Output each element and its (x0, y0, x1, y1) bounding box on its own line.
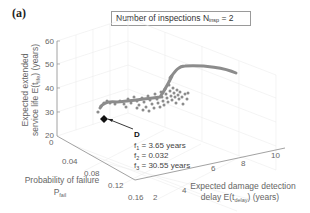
svg-text:service life E(tlife) (years): service life E(tlife) (years) (30, 44, 41, 136)
svg-text:40: 40 (45, 84, 54, 93)
annotation-point-d: D f1 = 3.65 years f2 = 0.032 f3 = 30.55 … (100, 115, 190, 171)
arrow-head-icon (108, 119, 113, 122)
svg-text:0.12: 0.12 (108, 181, 124, 190)
svg-text:10: 10 (271, 151, 280, 160)
svg-text:4: 4 (182, 186, 187, 195)
y-axis-label: Expected damage detection delay E(tdelay… (190, 181, 296, 203)
3d-scatter-plot: 60 50 40 30 20 0 0.04 0.08 0.12 0.16 2 4… (0, 0, 310, 213)
svg-text:f3 = 30.55 years: f3 = 30.55 years (134, 161, 190, 171)
z-tick-labels: 60 50 40 30 20 (45, 37, 54, 140)
svg-text:f1 = 3.65 years: f1 = 3.65 years (134, 141, 186, 151)
svg-text:Pfail: Pfail (54, 187, 67, 198)
svg-text:0: 0 (49, 138, 54, 147)
svg-text:D: D (134, 130, 140, 139)
svg-text:60: 60 (45, 37, 54, 46)
svg-text:delay E(tdelay) (years): delay E(tdelay) (years) (201, 192, 280, 203)
svg-text:Expected damage detection: Expected damage detection (190, 181, 296, 191)
svg-text:50: 50 (45, 60, 54, 69)
svg-text:2: 2 (153, 193, 158, 202)
svg-text:30: 30 (45, 108, 54, 117)
z-axis-label: Expected extended service life E(tlife) … (20, 44, 41, 136)
svg-text:Probability of failure: Probability of failure (25, 175, 100, 185)
svg-text:Expected extended: Expected extended (20, 53, 30, 126)
svg-text:0.16: 0.16 (128, 193, 144, 202)
data-series-pareto (96, 66, 236, 114)
svg-text:0.04: 0.04 (62, 157, 78, 166)
z-ticks (57, 41, 60, 112)
svg-text:f2 = 0.032: f2 = 0.032 (134, 151, 169, 161)
svg-text:8: 8 (241, 159, 246, 168)
x-axis-label: Probability of failure Pfail (25, 175, 100, 198)
svg-text:6: 6 (211, 164, 216, 173)
